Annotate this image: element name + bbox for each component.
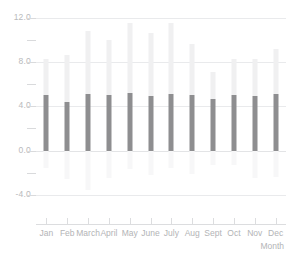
x-axis-tick-mark <box>67 218 68 224</box>
x-axis-tick-mark <box>130 218 131 224</box>
bar-chart: 12.08.04.00.0-4.0 JanFebMarchAprilMayJun… <box>0 0 290 258</box>
bar-segment-upper <box>190 44 195 95</box>
x-axis-tick-label: July <box>164 228 179 238</box>
y-axis-minor-tick-mark <box>27 173 36 174</box>
bar-segment-upper <box>231 59 236 96</box>
bar-segment-lower <box>127 151 132 170</box>
bar-segment-lower <box>252 151 257 179</box>
bar-segment-middle <box>231 95 236 150</box>
bar-segment-lower <box>231 151 236 165</box>
x-axis-tick-label: Jan <box>40 228 54 238</box>
x-axis-tick-label: Oct <box>227 228 240 238</box>
bar-segment-middle <box>273 94 278 151</box>
x-axis-tick-mark <box>276 218 277 224</box>
bar-segment-middle <box>211 99 216 151</box>
bar-segment-upper <box>211 72 216 99</box>
bar-segment-upper <box>252 59 257 97</box>
y-axis: 12.08.04.00.0-4.0 <box>0 0 36 218</box>
x-axis-tick-label: Feb <box>60 228 75 238</box>
gridline <box>36 195 286 196</box>
bar-dec[interactable] <box>273 11 278 206</box>
plot-area <box>36 11 286 206</box>
bar-segment-lower <box>169 151 174 169</box>
gridline <box>36 151 286 152</box>
bar-segment-lower <box>190 151 195 174</box>
bar-segment-upper <box>44 59 49 96</box>
bar-segment-lower <box>86 151 91 191</box>
bar-segment-middle <box>148 96 153 150</box>
bar-segment-middle <box>65 102 70 151</box>
x-axis-line <box>36 224 286 225</box>
x-axis-tick-mark <box>255 218 256 224</box>
y-axis-tick-mark <box>27 151 36 152</box>
bar-sept[interactable] <box>211 11 216 206</box>
x-axis-title: Month <box>260 241 284 251</box>
bar-segment-lower <box>65 151 70 180</box>
x-axis-tick-mark <box>192 218 193 224</box>
bar-segment-upper <box>148 33 153 96</box>
x-axis-tick-label: April <box>100 228 117 238</box>
bar-may[interactable] <box>127 11 132 206</box>
x-axis-tick-mark <box>213 218 214 224</box>
bar-segment-upper <box>127 23 132 93</box>
bar-segment-middle <box>86 94 91 151</box>
bar-feb[interactable] <box>65 11 70 206</box>
bar-segment-lower <box>148 151 153 175</box>
bar-aug[interactable] <box>190 11 195 206</box>
x-axis-tick-mark <box>88 218 89 224</box>
bar-june[interactable] <box>148 11 153 206</box>
y-axis-minor-tick-mark <box>27 84 36 85</box>
gridline <box>36 62 286 63</box>
bar-segment-middle <box>127 93 132 151</box>
bar-segment-upper <box>65 55 70 102</box>
y-axis-tick-mark <box>27 106 36 107</box>
bar-segment-upper <box>273 49 278 94</box>
gridline <box>36 106 286 107</box>
bar-segment-middle <box>252 96 257 150</box>
bar-segment-lower <box>273 151 278 178</box>
bar-jan[interactable] <box>44 11 49 206</box>
x-axis-tick-mark <box>234 218 235 224</box>
x-axis-tick-label: Nov <box>247 228 262 238</box>
x-axis-tick-label: Dec <box>268 228 283 238</box>
bar-segment-lower <box>106 151 111 179</box>
bar-segment-middle <box>44 95 49 150</box>
bar-segment-upper <box>169 23 174 94</box>
x-axis-tick-mark <box>171 218 172 224</box>
x-axis-tick-label: Sept <box>204 228 222 238</box>
bar-july[interactable] <box>169 11 174 206</box>
bar-oct[interactable] <box>231 11 236 206</box>
bar-segment-lower <box>211 151 216 165</box>
y-axis-tick-mark <box>27 62 36 63</box>
bar-segment-lower <box>44 151 49 169</box>
y-axis-minor-tick-mark <box>27 40 36 41</box>
x-axis-tick-label: Aug <box>185 228 200 238</box>
x-axis-tick-mark <box>46 218 47 224</box>
bar-segment-middle <box>106 95 111 150</box>
x-axis-tick-label: June <box>141 228 159 238</box>
bar-segment-upper <box>106 40 111 95</box>
y-axis-tick-mark <box>27 195 36 196</box>
bar-april[interactable] <box>106 11 111 206</box>
bar-march[interactable] <box>86 11 91 206</box>
bar-segment-middle <box>169 94 174 151</box>
x-axis-tick-label: March <box>76 228 100 238</box>
gridline <box>36 18 286 19</box>
bar-segment-middle <box>190 95 195 150</box>
bar-segment-upper <box>86 31 91 94</box>
x-axis-tick-label: May <box>122 228 138 238</box>
x-axis-tick-mark <box>109 218 110 224</box>
x-axis-tick-mark <box>151 218 152 224</box>
y-axis-minor-tick-mark <box>27 128 36 129</box>
bar-nov[interactable] <box>252 11 257 206</box>
y-axis-tick-mark <box>27 18 36 19</box>
